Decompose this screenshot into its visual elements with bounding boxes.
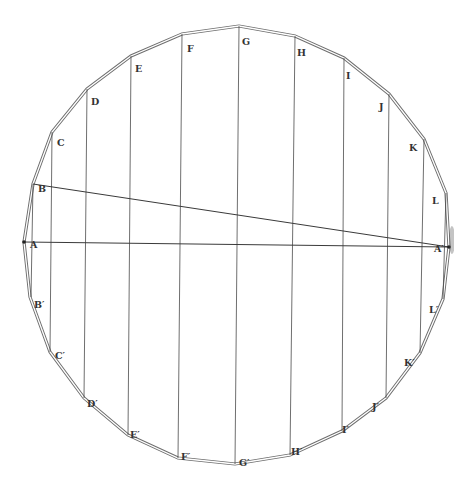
vertex-label: K (409, 142, 418, 153)
vertex-label: J′ (371, 401, 379, 412)
polygon-diagram: ABCDEFGHIJKLA′L′K′J′I′H′G′F′E′D′C′B′ (0, 0, 454, 486)
diagonal-lines (24, 184, 449, 247)
vertex-label: C (57, 137, 65, 148)
vertex-label: F (187, 43, 194, 54)
vertex-label: H′ (291, 446, 303, 457)
vertex-label: G (242, 36, 250, 47)
vertex-label: D (91, 96, 99, 107)
vertex-label: I (346, 70, 351, 81)
chord-line (420, 139, 424, 353)
vertex-label: C′ (55, 350, 66, 361)
vertex-label: B (38, 183, 46, 194)
vertex-label: G′ (239, 457, 250, 468)
vertex-label: A′ (433, 243, 444, 254)
diagonal-line (24, 242, 449, 247)
vertex-dot (22, 240, 26, 244)
vertex-label: H (297, 47, 306, 58)
diagram-canvas: ABCDEFGHIJKLA′L′K′J′I′H′G′F′E′D′C′B′ (0, 0, 454, 486)
vertex-label: E (135, 63, 142, 74)
vertex-label: I′ (342, 424, 349, 435)
vertex-label: L′ (429, 304, 439, 315)
vertex-label: B′ (34, 299, 45, 310)
vertex-label: E′ (130, 429, 140, 440)
chord-line (342, 58, 344, 431)
vertex-label: F′ (181, 451, 191, 462)
chord-line (84, 89, 87, 398)
vertex-label: L (432, 195, 439, 206)
chord-line (128, 56, 131, 435)
diagonal-line (33, 184, 449, 247)
vertex-label: J (378, 101, 384, 112)
vertex-label: K′ (404, 357, 415, 368)
chord-line (178, 34, 182, 458)
vertex-label: D′ (87, 398, 98, 409)
vertex-label: A (29, 239, 38, 250)
